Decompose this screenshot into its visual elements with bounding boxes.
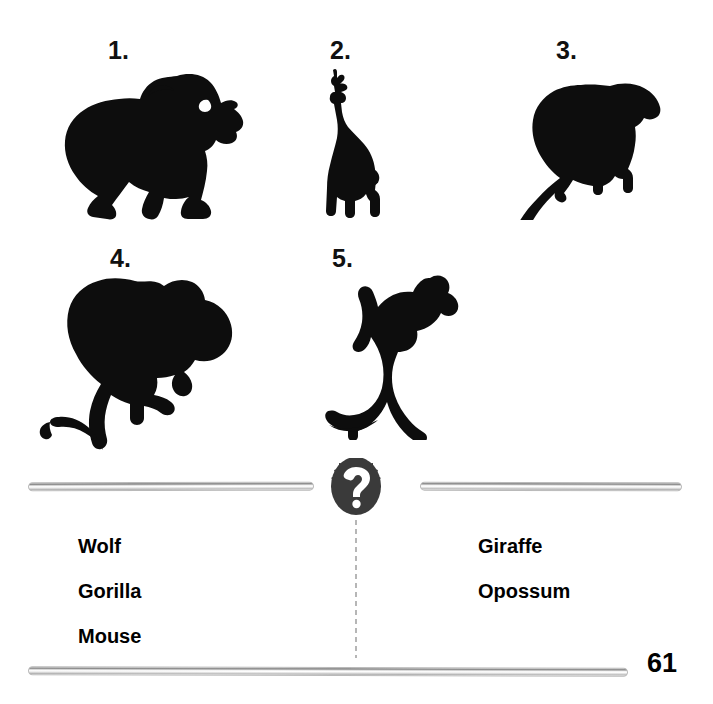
word-bank-item[interactable]: Wolf: [78, 536, 141, 556]
giraffe-silhouette: [322, 68, 392, 220]
item-number-3: 3.: [556, 38, 577, 63]
item-number-5: 5.: [332, 246, 353, 271]
word-bank-item[interactable]: Mouse: [78, 626, 141, 646]
word-bank-item[interactable]: Opossum: [478, 581, 570, 601]
worksheet-page: 1. 2. 3. 4. 5.: [0, 0, 713, 704]
mouse-silhouette: [36, 276, 240, 452]
item-number-2: 2.: [330, 38, 351, 63]
item-number-1: 1.: [108, 38, 129, 63]
wolf-silhouette: [322, 272, 472, 440]
opossum-silhouette: [500, 72, 670, 220]
item-number-4: 4.: [110, 246, 131, 271]
word-bank-right-column: Giraffe Opossum: [478, 536, 570, 601]
word-bank-item[interactable]: Giraffe: [478, 536, 570, 556]
dotted-connector: [354, 518, 358, 658]
page-number: 61: [647, 650, 677, 677]
question-badge[interactable]: [329, 458, 383, 520]
word-bank-item[interactable]: Gorilla: [78, 581, 141, 601]
word-bank-left-column: Wolf Gorilla Mouse: [78, 536, 141, 646]
divider-bar-left: [28, 482, 314, 492]
divider-bar-right: [420, 482, 682, 492]
divider-bar-bottom: [28, 666, 628, 677]
gorilla-silhouette: [60, 72, 252, 220]
